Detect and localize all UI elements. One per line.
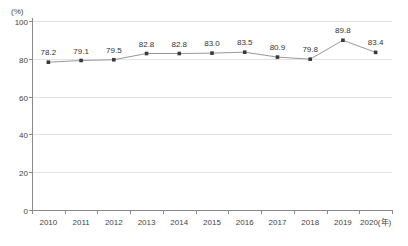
x-axis-tick-label: 2013 <box>138 218 156 227</box>
data-point-marker <box>243 50 247 54</box>
data-point-marker <box>177 52 181 56</box>
y-axis-tick-label: 20 <box>19 169 28 178</box>
data-point-label: 82.8 <box>171 40 187 49</box>
x-axis-tick-label: 2018 <box>301 218 319 227</box>
x-axis-tick-label: 2019 <box>334 218 352 227</box>
data-point-label: 79.1 <box>73 47 89 56</box>
y-axis-tick-label: 60 <box>19 94 28 103</box>
x-axis-tick-label: 2011 <box>72 218 90 227</box>
data-point-marker <box>276 55 280 59</box>
data-point-label: 80.9 <box>270 43 286 52</box>
data-point-label: 83.5 <box>237 38 253 47</box>
data-point-label: 79.8 <box>302 45 318 54</box>
x-axis-tick-label: 2015 <box>203 218 221 227</box>
data-point-label: 89.8 <box>335 26 351 35</box>
y-axis-tick-label: 100 <box>15 18 29 27</box>
x-axis-tick-label: 2020(年) <box>360 217 391 227</box>
data-point-label: 82.8 <box>139 40 155 49</box>
chart-canvas: 0204060801002010201120122013201420152016… <box>0 0 408 246</box>
data-point-marker <box>374 51 378 55</box>
x-axis-tick-label: 2017 <box>269 218 287 227</box>
y-axis-tick-label: 80 <box>19 56 28 65</box>
x-axis-tick-label: 2010 <box>39 218 57 227</box>
y-axis-tick-label: 40 <box>19 131 28 140</box>
data-point-label: 83.0 <box>204 39 220 48</box>
data-point-marker <box>112 58 116 62</box>
data-point-marker <box>145 52 149 56</box>
x-axis-tick-label: 2012 <box>105 218 123 227</box>
y-axis-tick-label: 0 <box>24 207 29 216</box>
x-axis-tick-label: 2016 <box>236 218 254 227</box>
x-axis-tick-label: 2014 <box>170 218 188 227</box>
data-point-label: 78.2 <box>41 48 57 57</box>
data-point-label: 83.4 <box>368 38 384 47</box>
data-point-marker <box>210 51 214 55</box>
data-point-marker <box>308 57 312 61</box>
data-point-marker <box>79 59 83 63</box>
line-chart: (%) 020406080100201020112012201320142015… <box>0 0 408 246</box>
data-point-marker <box>47 60 51 64</box>
data-point-label: 79.5 <box>106 46 122 55</box>
data-point-marker <box>341 38 345 42</box>
